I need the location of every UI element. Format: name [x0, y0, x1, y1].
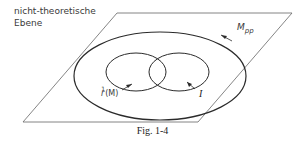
plane-label-line2: Ebene [14, 17, 96, 29]
label-i: I [198, 88, 203, 99]
label-mpp: Mpp [237, 22, 254, 35]
outer-set-ellipse [74, 32, 246, 120]
figure: Mpp r1(M) I nicht-theoretische Ebene Fig… [0, 0, 305, 145]
right-set-ellipse [149, 53, 209, 91]
plane-label: nicht-theoretische Ebene [14, 5, 96, 29]
figure-caption: Fig. 1-4 [0, 125, 305, 136]
plane-label-line1: nicht-theoretische [14, 5, 96, 17]
label-rm: r1(M) [101, 85, 118, 98]
